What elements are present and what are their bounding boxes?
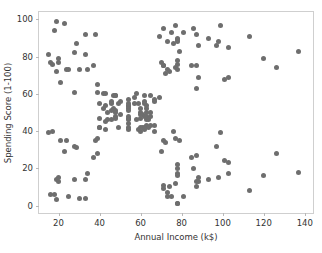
scatter-point xyxy=(72,177,77,182)
scatter-point xyxy=(134,91,139,96)
scatter-point xyxy=(194,63,199,68)
scatter-point xyxy=(161,26,166,31)
scatter-point xyxy=(261,56,266,61)
scatter-plot-figure: 020406080100 20406080100120140 Annual In… xyxy=(0,0,322,253)
scatter-point xyxy=(171,129,176,134)
y-axis-label-text: Spending Score (1-100) xyxy=(3,62,13,163)
scatter-point xyxy=(175,166,180,171)
scatter-point xyxy=(247,188,252,193)
scatter-point xyxy=(66,194,71,199)
scatter-point xyxy=(95,82,100,87)
scatter-point xyxy=(66,67,71,72)
scatter-point xyxy=(216,39,221,44)
scatter-point xyxy=(181,194,186,199)
scatter-point xyxy=(97,116,102,121)
scatter-point xyxy=(167,184,172,189)
x-tick-label: 140 xyxy=(297,218,313,228)
scatter-point xyxy=(194,184,199,189)
scatter-point xyxy=(159,149,164,154)
scatter-point xyxy=(206,177,211,182)
scatter-point xyxy=(72,50,77,55)
scatter-point xyxy=(103,91,108,96)
scatter-point xyxy=(196,175,201,180)
scatter-point xyxy=(109,101,114,106)
scatter-point xyxy=(144,103,149,108)
scatter-point xyxy=(72,90,77,95)
scatter-point xyxy=(194,86,199,91)
scatter-point xyxy=(95,151,100,156)
x-tick-mark xyxy=(141,213,142,216)
scatter-point xyxy=(167,69,172,74)
scatter-point xyxy=(175,173,180,178)
scatter-point xyxy=(74,145,79,150)
scatter-point xyxy=(191,166,196,171)
plot-axes-area: 020406080100 20406080100120140 xyxy=(38,11,314,214)
x-tick-label: 120 xyxy=(256,218,272,228)
scatter-point xyxy=(116,125,121,130)
scatter-point xyxy=(103,127,108,132)
y-tick-mark xyxy=(36,206,39,207)
scatter-point xyxy=(296,170,301,175)
scatter-point xyxy=(152,123,157,128)
scatter-point xyxy=(142,93,147,98)
scatter-point xyxy=(50,62,55,67)
y-tick-mark xyxy=(36,57,39,58)
scatter-point xyxy=(95,90,100,95)
scatter-point xyxy=(97,101,102,106)
scatter-point xyxy=(261,173,266,178)
x-tick-mark xyxy=(182,213,183,216)
scatter-point xyxy=(194,153,199,158)
y-tick-label: 80 xyxy=(22,52,33,62)
scatter-point xyxy=(152,99,157,104)
y-tick-mark xyxy=(36,19,39,20)
scatter-point xyxy=(83,196,88,201)
x-tick-label: 100 xyxy=(215,218,231,228)
scatter-point xyxy=(83,52,88,57)
scatter-point xyxy=(77,196,82,201)
scatter-point xyxy=(54,197,59,202)
scatter-points-layer xyxy=(39,12,313,213)
scatter-point xyxy=(181,30,186,35)
x-tick-label: 40 xyxy=(94,218,105,228)
scatter-point xyxy=(169,194,174,199)
y-tick-label: 60 xyxy=(22,89,33,99)
scatter-point xyxy=(206,36,211,41)
scatter-point xyxy=(83,177,88,182)
scatter-point xyxy=(274,151,279,156)
scatter-point xyxy=(126,108,131,113)
scatter-point xyxy=(173,181,178,186)
scatter-point xyxy=(191,26,196,31)
y-tick-label: 0 xyxy=(28,201,33,211)
scatter-point xyxy=(126,97,131,102)
scatter-point xyxy=(274,65,279,70)
x-tick-label: 80 xyxy=(176,218,187,228)
scatter-point xyxy=(177,138,182,143)
scatter-point xyxy=(226,160,231,165)
scatter-point xyxy=(118,112,123,117)
scatter-point xyxy=(85,171,90,176)
x-tick-mark xyxy=(59,213,60,216)
scatter-point xyxy=(165,39,170,44)
scatter-point xyxy=(173,23,178,28)
scatter-point xyxy=(93,32,98,37)
scatter-point xyxy=(97,125,102,130)
scatter-point xyxy=(196,75,201,80)
scatter-point xyxy=(62,149,67,154)
x-tick-label: 20 xyxy=(53,218,64,228)
scatter-point xyxy=(194,32,199,37)
y-tick-mark xyxy=(36,131,39,132)
scatter-point xyxy=(196,43,201,48)
scatter-point xyxy=(113,93,118,98)
scatter-point xyxy=(226,171,231,176)
x-axis-label: Annual Income (k$) xyxy=(38,232,314,242)
scatter-point xyxy=(218,130,223,135)
scatter-point xyxy=(175,58,180,63)
x-tick-mark xyxy=(305,213,306,216)
x-tick-mark xyxy=(223,213,224,216)
x-tick-mark xyxy=(264,213,265,216)
scatter-point xyxy=(157,95,162,100)
scatter-point xyxy=(54,19,59,24)
scatter-point xyxy=(126,127,131,132)
scatter-point xyxy=(296,49,301,54)
scatter-point xyxy=(157,34,162,39)
